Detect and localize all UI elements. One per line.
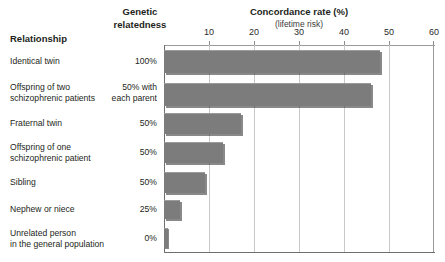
column-header-relationship: Relationship	[10, 33, 67, 45]
bar-concordance	[164, 228, 168, 248]
tick-mark-50	[389, 41, 390, 45]
row-value-genetic-relatedness: 25%	[140, 204, 157, 215]
row-label-relationship: Identical twin	[10, 56, 60, 67]
bar-concordance	[164, 142, 223, 163]
gridline-20	[254, 45, 255, 252]
row-label-relationship: Offspring of one schizophrenic patient	[10, 142, 91, 164]
gridline-40	[344, 45, 345, 252]
gridline-50	[389, 45, 390, 252]
row-label-relationship: Fraternal twin	[10, 118, 62, 129]
tick-mark-40	[344, 41, 345, 45]
tick-mark-10	[209, 41, 210, 45]
chart-title: Concordance rate (%)	[164, 6, 434, 18]
row-label-relationship: Sibling	[10, 177, 36, 188]
tick-mark-60	[433, 41, 434, 45]
tick-label-30: 30	[284, 27, 314, 38]
tick-label-10: 10	[194, 27, 224, 38]
tick-label-20: 20	[239, 27, 269, 38]
gridline-30	[299, 45, 300, 252]
bar-concordance	[164, 200, 180, 219]
bar-concordance	[164, 50, 380, 73]
row-value-genetic-relatedness: 100%	[135, 56, 157, 67]
bar-concordance	[164, 83, 371, 106]
tick-label-40: 40	[329, 27, 359, 38]
schizophrenia-concordance-chart: Relationship Genetic relatedness Concord…	[0, 0, 445, 262]
tick-label-60: 60	[419, 27, 445, 38]
bar-concordance	[164, 113, 241, 134]
row-label-relationship: Unrelated person in the general populati…	[10, 228, 104, 250]
tick-mark-20	[254, 41, 255, 45]
row-value-genetic-relatedness: 50% with each parent	[112, 82, 157, 104]
row-label-relationship: Offspring of two schizophrenic patients	[10, 82, 95, 104]
row-value-genetic-relatedness: 0%	[145, 233, 157, 244]
row-value-genetic-relatedness: 50%	[140, 118, 157, 129]
row-label-relationship: Nephew or niece	[10, 204, 75, 215]
bar-concordance	[164, 172, 205, 193]
row-value-genetic-relatedness: 50%	[140, 147, 157, 158]
tick-mark-30	[299, 41, 300, 45]
gridline-60	[433, 45, 434, 252]
row-value-genetic-relatedness: 50%	[140, 177, 157, 188]
tick-label-50: 50	[374, 27, 404, 38]
